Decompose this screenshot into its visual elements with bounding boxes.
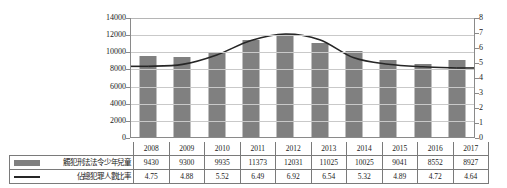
line-path bbox=[148, 34, 457, 68]
right-axis-tick bbox=[475, 33, 479, 34]
table-row: 佔總犯罪人數比率4.754.885.526.496.926.545.324.89… bbox=[10, 170, 489, 184]
right-axis-tick bbox=[475, 138, 479, 139]
table-year-cell: 2015 bbox=[382, 142, 418, 156]
table-year-cell: 2014 bbox=[347, 142, 383, 156]
legend-cell: 觸犯刑法法令少年兒童 bbox=[10, 156, 134, 170]
data-table-body: 2008200920102011201220132014201520162017… bbox=[10, 142, 489, 184]
legend-cell: 佔總犯罪人數比率 bbox=[10, 170, 134, 184]
left-axis-tick bbox=[126, 18, 130, 19]
table-value-cell: 8552 bbox=[418, 156, 454, 170]
right-axis-tick-label: 1 bbox=[479, 119, 483, 127]
table-year-cell: 2010 bbox=[205, 142, 241, 156]
combo-chart: 02000400060008000100001200014000 0123456… bbox=[0, 0, 507, 188]
gridline bbox=[131, 87, 474, 88]
right-axis-tick bbox=[475, 63, 479, 64]
right-axis-tick bbox=[475, 78, 479, 79]
table-value-cell: 6.54 bbox=[311, 170, 347, 184]
left-value-axis: 02000400060008000100001200014000 bbox=[88, 0, 126, 140]
left-axis-tick-label: 12000 bbox=[106, 31, 126, 39]
right-axis-tick bbox=[475, 123, 479, 124]
table-value-cell: 9300 bbox=[169, 156, 205, 170]
left-axis-tick-label: 4000 bbox=[110, 100, 126, 108]
table-value-cell: 5.32 bbox=[347, 170, 383, 184]
legend-label: 佔總犯罪人數比率 bbox=[77, 172, 131, 181]
left-axis-tick bbox=[126, 104, 130, 105]
right-axis-tick bbox=[475, 108, 479, 109]
data-table: 2008200920102011201220132014201520162017… bbox=[9, 142, 489, 184]
right-axis-tick-label: 7 bbox=[479, 29, 483, 37]
table-year-cell: 2017 bbox=[453, 142, 489, 156]
left-axis-tick-label: 6000 bbox=[110, 83, 126, 91]
table-year-cell: 2009 bbox=[169, 142, 205, 156]
table-year-cell: 2011 bbox=[240, 142, 276, 156]
table-year-cell: 2013 bbox=[311, 142, 347, 156]
right-axis-tick-label: 8 bbox=[479, 14, 483, 22]
table-value-cell: 4.88 bbox=[169, 170, 205, 184]
gridline bbox=[131, 18, 474, 19]
gridline bbox=[131, 69, 474, 70]
right-axis-tick-label: 0 bbox=[479, 134, 483, 142]
left-axis-tick-label: 10000 bbox=[106, 48, 126, 56]
left-axis-tick bbox=[126, 138, 130, 139]
left-axis-tick bbox=[126, 121, 130, 122]
table-year-cell: 2012 bbox=[276, 142, 312, 156]
left-axis-tick-label: 8000 bbox=[110, 65, 126, 73]
table-value-cell: 4.89 bbox=[382, 170, 418, 184]
table-year-cell: 2008 bbox=[134, 142, 170, 156]
right-axis-tick bbox=[475, 18, 479, 19]
table-row-years: 2008200920102011201220132014201520162017 bbox=[10, 142, 489, 156]
bar-legend-swatch-icon bbox=[14, 160, 40, 166]
left-axis-tick bbox=[126, 52, 130, 53]
table-value-cell: 11025 bbox=[311, 156, 347, 170]
table-value-cell: 4.64 bbox=[453, 170, 489, 184]
gridline bbox=[131, 104, 474, 105]
table-value-cell: 10025 bbox=[347, 156, 383, 170]
table-value-cell: 12031 bbox=[276, 156, 312, 170]
right-axis-tick-label: 4 bbox=[479, 74, 483, 82]
left-axis-tick bbox=[126, 69, 130, 70]
line-legend-swatch-icon bbox=[14, 176, 40, 178]
gridline bbox=[131, 52, 474, 53]
table-value-cell: 8927 bbox=[453, 156, 489, 170]
legend-label: 觸犯刑法法令少年兒童 bbox=[63, 158, 131, 167]
table-row: 觸犯刑法法令少年兒童943093009935113731203111025100… bbox=[10, 156, 489, 170]
table-value-cell: 9041 bbox=[382, 156, 418, 170]
left-axis-tick bbox=[126, 35, 130, 36]
left-axis-tick-label: 2000 bbox=[110, 117, 126, 125]
right-value-axis: 012345678 bbox=[479, 0, 503, 140]
table-value-cell: 9935 bbox=[205, 156, 241, 170]
gridline bbox=[131, 35, 474, 36]
table-year-cell: 2016 bbox=[418, 142, 454, 156]
table-corner-cell bbox=[10, 142, 134, 156]
table-value-cell: 6.49 bbox=[240, 170, 276, 184]
right-axis-tick-label: 3 bbox=[479, 89, 483, 97]
gridline bbox=[131, 121, 474, 122]
left-axis-tick-label: 14000 bbox=[106, 14, 126, 22]
table-value-cell: 9430 bbox=[134, 156, 170, 170]
table-value-cell: 6.92 bbox=[276, 170, 312, 184]
right-axis-tick bbox=[475, 93, 479, 94]
right-axis-tick-label: 5 bbox=[479, 59, 483, 67]
right-axis-tick bbox=[475, 48, 479, 49]
table-value-cell: 4.75 bbox=[134, 170, 170, 184]
plot-wrapper: 02000400060008000100001200014000 0123456… bbox=[0, 0, 507, 140]
table-value-cell: 4.72 bbox=[418, 170, 454, 184]
right-axis-tick-label: 6 bbox=[479, 44, 483, 52]
plot-area bbox=[130, 18, 475, 138]
table-value-cell: 5.52 bbox=[205, 170, 241, 184]
right-axis-tick-label: 2 bbox=[479, 104, 483, 112]
left-axis-tick bbox=[126, 87, 130, 88]
table-value-cell: 11373 bbox=[240, 156, 276, 170]
